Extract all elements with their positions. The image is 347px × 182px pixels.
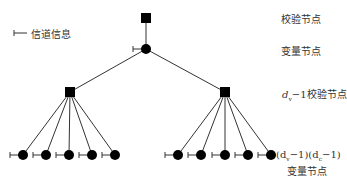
dv-check-label: dv−1校验节点 <box>282 86 347 102</box>
bottom-label-formula: (dv−1)(dc−1) <box>276 149 341 162</box>
check-node-right <box>220 87 230 97</box>
legend-label: 信道信息 <box>31 26 71 41</box>
root-variable-node <box>141 44 151 54</box>
variable-node-label: 变量节点 <box>281 43 321 58</box>
root-check-node <box>141 13 151 23</box>
check-node-left <box>65 87 75 97</box>
check-node-label: 校验节点 <box>281 11 321 26</box>
bottom-label-variable-node: 变量节点 <box>287 163 327 178</box>
